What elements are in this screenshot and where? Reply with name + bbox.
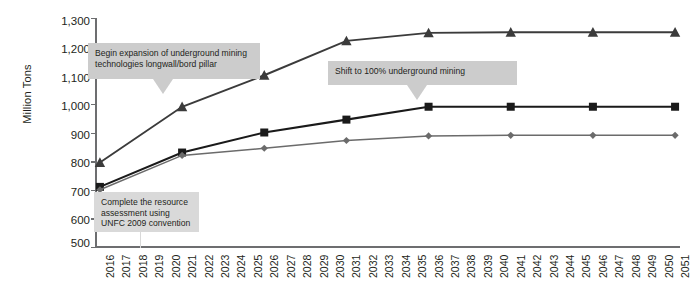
- y-tick-label: 600: [44, 215, 90, 226]
- data-point-diamond: [589, 132, 596, 139]
- data-point-triangle: [259, 70, 269, 80]
- data-point-diamond: [507, 132, 514, 139]
- data-point-diamond: [671, 132, 678, 139]
- data-point-diamond: [425, 132, 432, 139]
- data-point-triangle: [95, 157, 105, 167]
- annotation-shift-100-underground: Shift to 100% underground mining: [328, 61, 517, 85]
- data-point-square: [507, 103, 515, 111]
- y-tick-label: 1,000: [44, 101, 90, 112]
- y-axis-tick-labels: 1,300 1,200 1,100 1,000 900 800 700 600 …: [44, 0, 90, 292]
- y-tick-label: 1,300: [44, 16, 90, 27]
- annotation-underground-expansion: Begin expansion of underground mining te…: [88, 43, 260, 79]
- data-point-diamond: [261, 145, 268, 152]
- series-line-lower-projection: [100, 135, 675, 189]
- y-tick-label: 500: [44, 238, 90, 249]
- data-point-square: [342, 116, 350, 124]
- data-point-diamond: [343, 137, 350, 144]
- data-point-square: [425, 103, 433, 111]
- y-tick-label: 1,100: [44, 73, 90, 84]
- data-point-square: [260, 129, 268, 137]
- annotation-unfc-assessment: Complete the resource assessment using U…: [94, 192, 199, 232]
- x-tick-label: 2051: [679, 234, 691, 278]
- y-tick-label: 1,200: [44, 44, 90, 55]
- annotation-unfc-assessment-pointer: [140, 232, 141, 248]
- y-tick-label: 900: [44, 130, 90, 141]
- data-point-square: [671, 103, 679, 111]
- data-point-square: [589, 103, 597, 111]
- y-tickmark: [91, 247, 95, 248]
- y-axis-title: Million Tons: [21, 49, 33, 139]
- annotation-shift-100-underground-arrow: [407, 85, 427, 100]
- y-tick-label: 800: [44, 158, 90, 169]
- series-line-middle-projection: [100, 107, 675, 187]
- annotation-underground-expansion-arrow: [153, 79, 173, 94]
- y-tick-label: 700: [44, 187, 90, 198]
